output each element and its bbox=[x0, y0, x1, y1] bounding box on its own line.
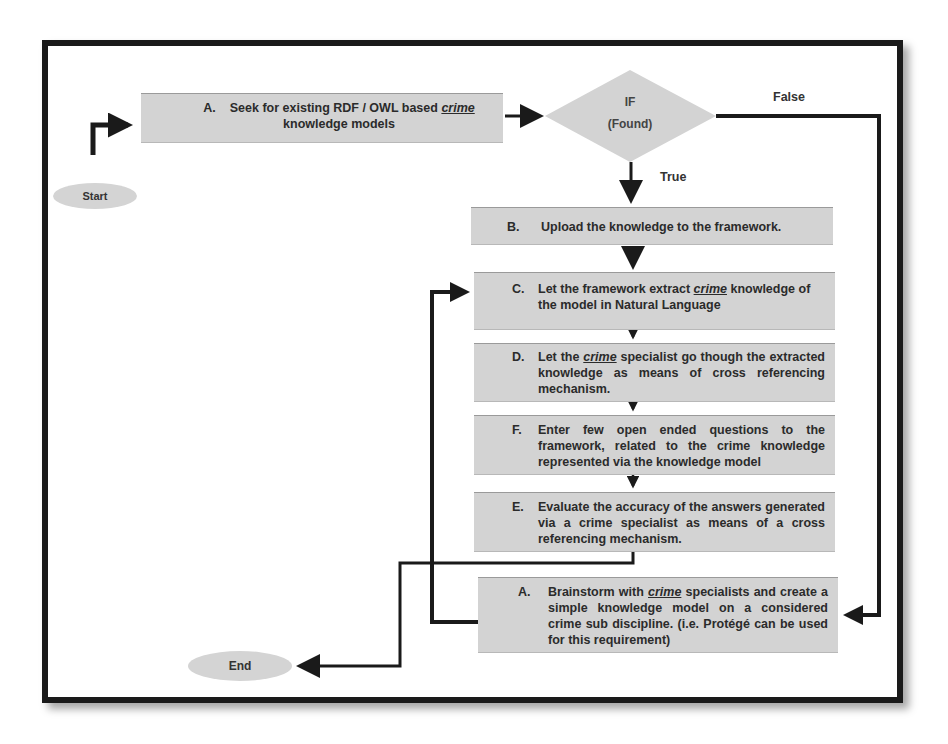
step-extract: C. Let the framework extract crime knowl… bbox=[474, 272, 835, 330]
emphasis-crime: crime bbox=[583, 350, 616, 364]
end-label: End bbox=[229, 659, 252, 673]
decision-label: IF (Found) bbox=[580, 95, 680, 131]
step-letter: C. bbox=[512, 281, 538, 313]
step-letter: A. bbox=[518, 584, 548, 648]
emphasis-crime: crime bbox=[648, 585, 681, 599]
true-label: True bbox=[660, 170, 686, 184]
step-letter: E. bbox=[512, 499, 538, 547]
step-letter: D. bbox=[512, 349, 538, 397]
step-evaluate: E. Evaluate the accuracy of the answers … bbox=[474, 492, 835, 552]
step-upload: B. Upload the knowledge to the framework… bbox=[471, 207, 833, 245]
step-letter: B. bbox=[507, 219, 541, 235]
step-questions: F. Enter few open ended questions to the… bbox=[474, 415, 835, 475]
emphasis-crime: crime bbox=[441, 101, 474, 115]
emphasis-crime: crime bbox=[694, 282, 727, 296]
step-seek: A.Seek for existing RDF / OWL based crim… bbox=[141, 93, 503, 143]
false-label: False bbox=[773, 90, 805, 104]
step-letter: A. bbox=[203, 101, 216, 115]
step-specialist: D. Let the crime specialist go though th… bbox=[474, 343, 835, 402]
step-letter: F. bbox=[512, 422, 538, 470]
start-terminal: Start bbox=[53, 183, 137, 209]
step-brainstorm: A. Brainstorm with crime specialists and… bbox=[478, 577, 838, 653]
end-terminal: End bbox=[188, 651, 292, 681]
start-label: Start bbox=[82, 190, 107, 202]
